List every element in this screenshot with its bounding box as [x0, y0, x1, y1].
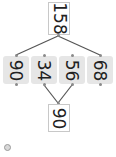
cell-3-value: 56	[63, 59, 80, 81]
cell-2: 34	[31, 56, 57, 84]
cell-2-bottom-dot	[43, 83, 46, 86]
cell-1-top-dot	[15, 54, 18, 57]
settings-icon[interactable]	[4, 144, 11, 151]
top-total-value: 158	[51, 2, 68, 34]
cell-4-bottom-dot	[99, 83, 102, 86]
bottom-sum-value: 90	[51, 107, 68, 129]
cell-4-top-dot	[99, 54, 102, 57]
top-total-box: 158	[48, 2, 70, 35]
bottom-sum-box: 90	[48, 104, 70, 132]
cell-1: 90	[3, 56, 29, 84]
cell-4: 68	[87, 56, 113, 84]
top-connector-dot	[57, 34, 60, 37]
cell-2-top-dot	[43, 54, 46, 57]
cell-3: 56	[59, 56, 85, 84]
cell-3-bottom-dot	[71, 83, 74, 86]
cell-3-top-dot	[71, 54, 74, 57]
cell-2-value: 34	[35, 59, 52, 81]
cell-1-bottom-dot	[15, 83, 18, 86]
cell-4-value: 68	[91, 59, 108, 81]
cell-1-value: 90	[7, 59, 24, 81]
